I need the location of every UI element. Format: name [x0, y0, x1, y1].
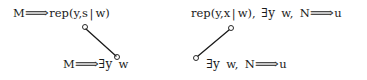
right-top-rhs-tail: w), [237, 6, 257, 20]
left-top-rhs-tail: w) [94, 6, 110, 20]
left-bottom-implies-arrow-icon: ⟹ [72, 57, 102, 71]
right-top-bar: | [231, 6, 236, 20]
right-diagram-edge [198, 30, 229, 56]
left-top-implies-arrow-icon: ⟹ [22, 6, 52, 20]
left-lower-node [114, 54, 120, 60]
left-diagram-edge [86, 29, 116, 56]
right-bottom-exists-quantifier-icon: ∃y [206, 57, 221, 71]
left-upper-node [82, 24, 88, 30]
left-diagram-top-formula: M⟹rep(y,s|w) [12, 6, 111, 20]
right-lower-node [193, 55, 199, 61]
right-bottom-var: w, [225, 57, 239, 71]
figure-canvas: M⟹rep(y,s|w) M⟹∃y w rep(y,x|w), ∃y w, N⟹… [0, 0, 367, 80]
right-bottom-implies-arrow-icon: ⟹ [252, 57, 282, 71]
right-diagram-top-formula: rep(y,x|w), ∃y w, N⟹u [190, 6, 343, 20]
right-top-implies-arrow-icon: ⟹ [307, 6, 337, 20]
right-top-var: w, [280, 6, 294, 20]
right-top-rhs-head: rep(y,x [190, 6, 231, 20]
left-bottom-var: w [118, 57, 130, 71]
right-diagram-bottom-formula: ∃y w, N⟹u [206, 57, 288, 71]
right-upper-node [228, 25, 234, 31]
left-top-rhs-head: rep(y,s [48, 6, 89, 20]
right-top-exists-quantifier-icon: ∃y [261, 6, 276, 20]
left-diagram-bottom-formula: M⟹∃y w [62, 57, 129, 71]
